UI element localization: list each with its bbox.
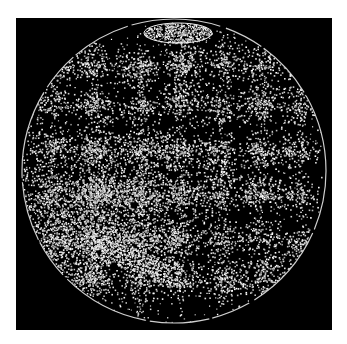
- surface-markings: [0, 20, 331, 326]
- planet-disc-image: [0, 0, 347, 344]
